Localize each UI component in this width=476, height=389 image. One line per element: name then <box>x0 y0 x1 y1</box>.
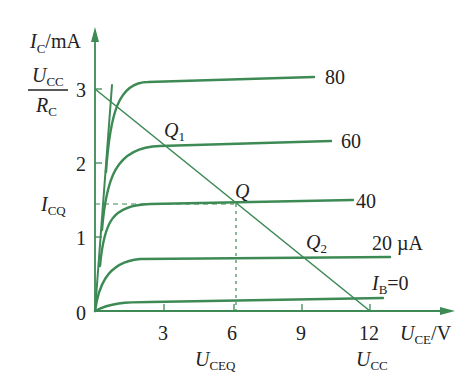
curve-label-60: 60 <box>341 130 361 152</box>
y-tick-1: 1 <box>76 227 86 249</box>
y-axis-arrow-icon <box>91 27 99 42</box>
q-point-label: Q <box>235 180 250 202</box>
axes <box>95 40 448 311</box>
curve-label-20: 20 µA <box>372 232 424 255</box>
q1-point-label: Q1 <box>164 119 185 144</box>
x-tick-9: 9 <box>296 322 306 344</box>
x-axis-label: UCE/V <box>400 322 452 347</box>
transistor-output-characteristics-chart: IC/mA UCC RC 3 2 1 0 ICQ 3 6 9 12 UCE/V … <box>0 0 476 389</box>
y-tick-2: 2 <box>76 153 86 175</box>
curve-ib-0 <box>95 298 383 311</box>
x-tick-12: 12 <box>359 322 379 344</box>
y-tick-3: 3 <box>76 79 86 101</box>
y-axis-label: IC/mA <box>29 30 81 56</box>
curve-ib-80 <box>106 77 314 172</box>
curve-label-80: 80 <box>325 66 345 88</box>
curve-label-ib0: IB=0 <box>371 272 409 297</box>
x-tick-6: 6 <box>227 322 237 344</box>
icq-label: ICQ <box>40 193 66 218</box>
ucc-over-rc-numerator: UCC <box>32 64 64 89</box>
x-tick-3: 3 <box>158 322 168 344</box>
saturation-boundary <box>95 85 112 311</box>
ucc-over-rc-denominator: RC <box>35 94 57 119</box>
curve-ib-60 <box>102 141 331 230</box>
origin-label: 0 <box>76 302 86 324</box>
q2-point-label: Q2 <box>306 231 327 256</box>
curve-label-40: 40 <box>356 190 376 212</box>
x-axis-arrow-icon <box>440 307 455 315</box>
ucc-label: UCC <box>356 348 388 373</box>
uceq-label: UCEQ <box>195 348 236 373</box>
